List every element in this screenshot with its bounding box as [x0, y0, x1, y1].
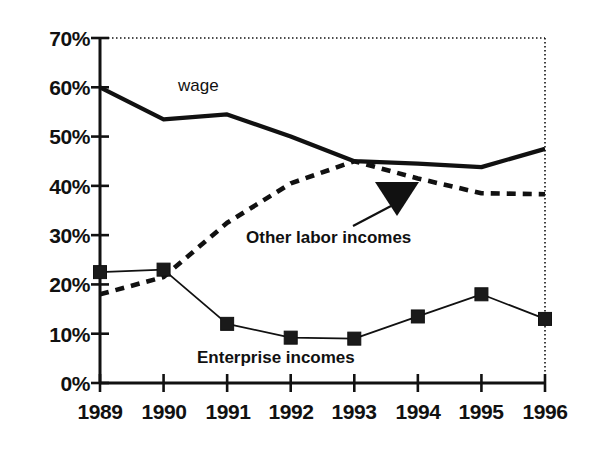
- series-line-wage: [100, 87, 545, 167]
- series-marker-enterprise-incomes: [539, 312, 552, 325]
- series-marker-enterprise-incomes: [94, 266, 107, 279]
- y-tick-label-20: 20%: [24, 273, 90, 297]
- x-tick-label-1996: 1996: [507, 400, 583, 424]
- y-tick-label-50: 50%: [24, 125, 90, 149]
- chart-container: 70% 60% 50% 40% 30% 20% 10% 0% 1989 1990…: [0, 0, 595, 452]
- y-tick-label-0: 0%: [24, 372, 90, 396]
- series-line-enterprise-incomes: [100, 270, 545, 339]
- y-tick-label-30: 30%: [24, 224, 90, 248]
- series-marker-enterprise-incomes: [284, 331, 297, 344]
- series-marker-enterprise-incomes: [475, 288, 488, 301]
- series-marker-enterprise-incomes: [411, 310, 424, 323]
- series-label-enterprise-incomes: Enterprise incomes: [197, 348, 355, 368]
- y-tick-label-70: 70%: [24, 27, 90, 51]
- chart-frame: [100, 38, 545, 383]
- series-label-wage: wage: [178, 76, 219, 96]
- series-marker-enterprise-incomes: [221, 317, 234, 330]
- chart-annotation-arrow: [353, 182, 419, 226]
- chart-series-group: [94, 87, 552, 345]
- y-tick-label-60: 60%: [24, 76, 90, 100]
- y-tick-label-40: 40%: [24, 175, 90, 199]
- series-label-other-labor-incomes: Other labor incomes: [246, 228, 411, 248]
- annotation-leader-line: [353, 206, 391, 226]
- series-marker-enterprise-incomes: [157, 263, 170, 276]
- series-marker-enterprise-incomes: [348, 332, 361, 345]
- y-tick-label-10: 10%: [24, 323, 90, 347]
